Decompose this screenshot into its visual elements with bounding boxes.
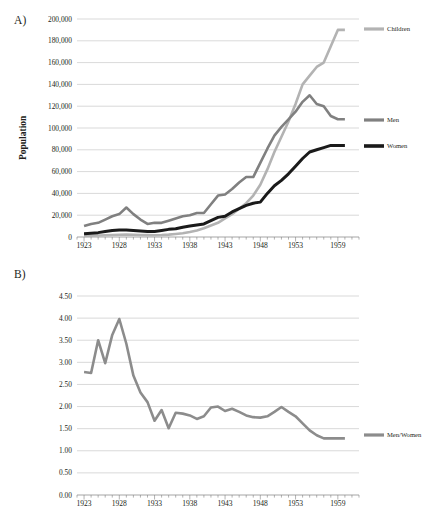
y-tick-label: 60,000 xyxy=(52,167,73,176)
y-tick-label: 1.50 xyxy=(59,424,72,433)
series-line-women xyxy=(84,145,345,233)
legend-label-men: Men xyxy=(387,116,400,123)
y-tick-label: 80,000 xyxy=(52,145,73,154)
y-tick-label: 3.50 xyxy=(59,336,72,345)
y-tick-label: 0.50 xyxy=(59,468,72,477)
y-tick-label: 100,000 xyxy=(48,124,72,133)
x-tick-label: 1928 xyxy=(112,499,127,508)
x-tick-label: 1959 xyxy=(330,241,345,250)
figure-container: A) Population 020,00040,00060,00080,0001… xyxy=(0,0,432,517)
y-tick-label: 140,000 xyxy=(48,80,72,89)
y-tick-label: 2.50 xyxy=(59,380,72,389)
x-tick-label: 1923 xyxy=(76,241,91,250)
panel-b: B) Ratio of adult men per adult woman 0.… xyxy=(0,258,432,517)
y-tick-label: 20,000 xyxy=(52,211,73,220)
y-tick-label: 160,000 xyxy=(48,58,72,67)
y-tick-label: 1.00 xyxy=(59,446,72,455)
y-tick-label: 0 xyxy=(68,233,72,242)
x-tick-label: 1938 xyxy=(182,241,197,250)
y-tick-label: 180,000 xyxy=(48,36,72,45)
x-tick-label: 1943 xyxy=(217,499,232,508)
legend-label-men-women: Men/Women xyxy=(387,431,422,438)
panel-a-chart: 020,00040,00060,00080,000100,000120,0001… xyxy=(0,0,432,258)
series-line-men xyxy=(84,95,345,226)
y-tick-label: 4.00 xyxy=(59,314,72,323)
y-tick-label: 120,000 xyxy=(48,102,72,111)
series-line-children xyxy=(84,30,345,236)
y-tick-label: 4.50 xyxy=(59,292,72,301)
x-tick-label: 1948 xyxy=(253,241,268,250)
x-tick-label: 1959 xyxy=(330,499,345,508)
x-tick-label: 1938 xyxy=(182,499,197,508)
series-line-men-women xyxy=(84,319,345,438)
x-tick-label: 1953 xyxy=(288,241,303,250)
y-tick-label: 0.00 xyxy=(59,491,72,500)
y-tick-label: 2.00 xyxy=(59,402,72,411)
y-tick-label: 200,000 xyxy=(48,15,72,24)
y-tick-label: 3.00 xyxy=(59,358,72,367)
x-tick-label: 1943 xyxy=(217,241,232,250)
panel-b-chart: 0.000.501.001.502.002.503.003.504.004.50… xyxy=(0,258,432,517)
legend-label-children: Children xyxy=(387,25,411,32)
x-tick-label: 1928 xyxy=(112,241,127,250)
x-tick-label: 1948 xyxy=(253,499,268,508)
panel-a: A) Population 020,00040,00060,00080,0001… xyxy=(0,0,432,258)
x-tick-label: 1953 xyxy=(288,499,303,508)
legend-label-women: Women xyxy=(387,142,408,149)
x-tick-label: 1933 xyxy=(147,241,162,250)
y-tick-label: 40,000 xyxy=(52,189,73,198)
x-tick-label: 1933 xyxy=(147,499,162,508)
x-tick-label: 1923 xyxy=(76,499,91,508)
